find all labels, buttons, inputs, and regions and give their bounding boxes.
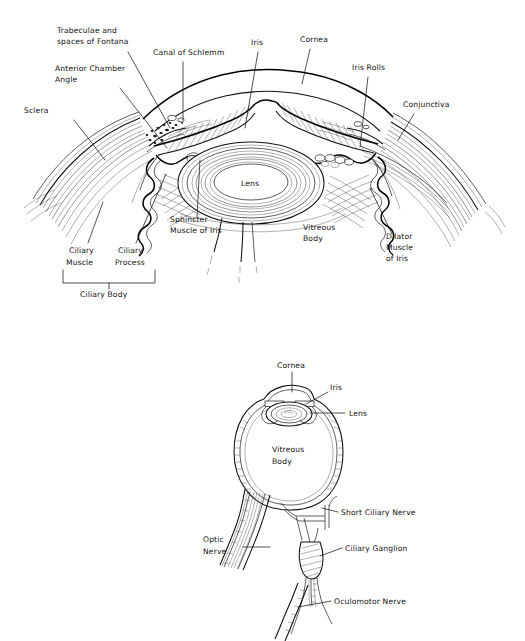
optic-nerve bbox=[220, 489, 270, 570]
label-dilator-muscle-of-iris: Dilator Muscle of Iris bbox=[386, 232, 416, 263]
label-ciliary-body: Ciliary Body bbox=[80, 290, 128, 299]
ciliary-muscle-right bbox=[322, 175, 378, 228]
label-vitreous-body-top: Vitreous Body bbox=[303, 223, 338, 243]
ciliary-epithelium-left bbox=[138, 158, 161, 256]
ciliary-body-bracket bbox=[63, 270, 155, 289]
label-anterior-chamber-angle: Anterior Chamber Angle bbox=[55, 64, 128, 84]
label-ciliary-ganglion: Ciliary Ganglion bbox=[345, 544, 408, 553]
label-ciliary-process: Ciliary Process bbox=[115, 246, 146, 267]
lens-bottom bbox=[266, 402, 312, 426]
label-iris: Iris bbox=[251, 38, 263, 47]
label-ciliary-muscle: Ciliary Muscle bbox=[66, 246, 97, 267]
label-cornea-bottom: Cornea bbox=[277, 361, 305, 370]
eye-anatomy-figure: Trabeculae and spaces of Fontana Canal o… bbox=[0, 0, 525, 641]
eye-anatomy-svg: Trabeculae and spaces of Fontana Canal o… bbox=[0, 0, 525, 641]
label-short-ciliary-nerve: Short Ciliary Nerve bbox=[341, 508, 416, 517]
label-trabeculae: Trabeculae and spaces of Fontana bbox=[56, 26, 129, 46]
sclera-right bbox=[374, 113, 505, 247]
optic-nerve-sheath-dashes bbox=[224, 500, 250, 564]
ciliary-ganglion bbox=[299, 542, 323, 579]
label-iris-bottom: Iris bbox=[330, 383, 342, 392]
label-cornea: Cornea bbox=[300, 35, 328, 44]
bottom-diagram-labels: Cornea Iris Lens Vitreous Body Short Cil… bbox=[203, 361, 416, 606]
label-oculomotor-nerve: Oculomotor Nerve bbox=[334, 597, 406, 606]
label-conjunctiva: Conjunctiva bbox=[403, 100, 450, 109]
label-iris-rolls: Iris Rolls bbox=[352, 63, 385, 72]
label-canal-of-schlemm: Canal of Schlemm bbox=[153, 48, 224, 57]
canal-of-schlemm-shape bbox=[168, 115, 176, 120]
bottom-diagram-drawing bbox=[220, 372, 345, 641]
label-optic-nerve: Optic Nerve bbox=[203, 535, 227, 556]
label-sclera: Sclera bbox=[24, 106, 48, 115]
label-lens-bottom: Lens bbox=[349, 409, 367, 418]
label-vitreous-body-bottom: Vitreous Body bbox=[272, 445, 307, 466]
sclera-left bbox=[24, 112, 155, 244]
pupil-margin bbox=[255, 100, 276, 104]
label-lens-top: Lens bbox=[241, 179, 259, 188]
cornea-dome-inner bbox=[268, 390, 311, 401]
nerve-trunk bbox=[296, 516, 318, 542]
